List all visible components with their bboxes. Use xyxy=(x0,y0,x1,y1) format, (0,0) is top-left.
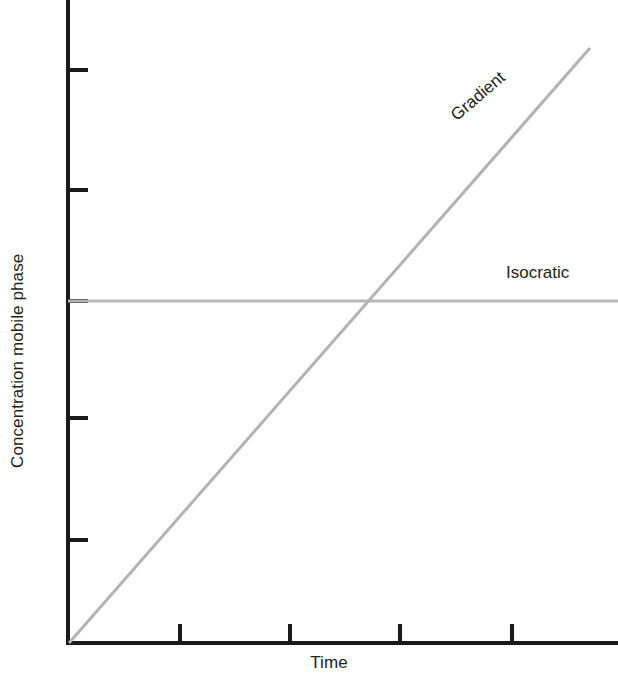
series-label-isocratic: Isocratic xyxy=(506,263,569,283)
x-axis-title: Time xyxy=(0,653,618,673)
y-axis-title-text: Concentration mobile phase xyxy=(8,254,28,468)
chart-plot-area xyxy=(0,0,618,680)
series-line-gradient xyxy=(69,48,590,643)
x-axis-ticks xyxy=(180,624,512,643)
chart-figure: Concentration mobile phase Time Gradient… xyxy=(0,0,618,680)
y-axis-ticks xyxy=(68,70,88,540)
